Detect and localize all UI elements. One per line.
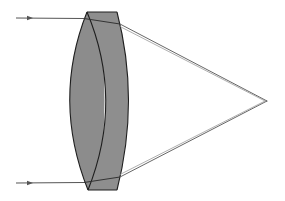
converging-rays bbox=[120, 24, 267, 177]
arrow-right-icon bbox=[27, 181, 33, 185]
arrow-right-icon bbox=[27, 16, 33, 20]
lens-ray-diagram bbox=[0, 0, 285, 201]
focal-point bbox=[266, 100, 267, 101]
